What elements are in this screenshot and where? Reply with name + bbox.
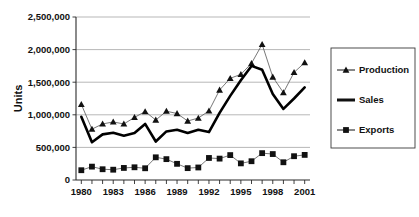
data-point-marker — [206, 155, 212, 161]
data-point-marker — [78, 101, 85, 107]
data-point-marker — [206, 107, 213, 113]
data-point-marker — [110, 167, 116, 173]
series-line — [81, 44, 304, 129]
data-point-marker — [89, 164, 95, 170]
x-tick-label: 1995 — [230, 186, 252, 197]
y-tick-label: 500,000 — [36, 142, 70, 153]
gridlines — [76, 17, 310, 147]
data-point-marker — [227, 152, 233, 158]
x-axis-tick-labels: 19801983198619891992199519982001 — [71, 186, 316, 197]
data-point-marker — [291, 153, 297, 159]
y-tick-label: 2,500,000 — [28, 11, 70, 22]
data-point-marker — [152, 117, 159, 123]
x-axis-tick-marks — [81, 180, 304, 184]
data-point-marker — [174, 161, 180, 167]
data-point-marker — [164, 156, 170, 162]
legend-swatch-marker — [343, 127, 349, 133]
data-point-marker — [270, 151, 276, 157]
series-production — [78, 41, 308, 132]
data-point-marker — [281, 159, 287, 165]
data-point-marker — [269, 74, 276, 80]
chart-svg: 0500,0001,000,0001,500,0002,000,0002,500… — [0, 0, 419, 217]
data-point-marker — [89, 126, 96, 132]
y-axis-title: Units — [12, 85, 24, 113]
data-point-marker — [249, 158, 255, 164]
x-tick-label: 1992 — [198, 186, 219, 197]
x-tick-label: 2001 — [294, 186, 316, 197]
data-point-marker — [217, 156, 223, 162]
series-exports — [78, 150, 307, 173]
data-point-marker — [153, 154, 159, 160]
data-point-marker — [195, 165, 201, 171]
x-tick-label: 1986 — [135, 186, 156, 197]
data-point-marker — [238, 160, 244, 166]
y-tick-label: 0 — [65, 174, 70, 185]
data-point-marker — [259, 41, 266, 47]
data-point-marker — [227, 75, 234, 81]
data-point-marker — [302, 152, 308, 158]
data-point-marker — [195, 115, 202, 121]
chart-container: 0500,0001,000,0001,500,0002,000,0002,500… — [0, 0, 419, 217]
y-tick-label: 1,500,000 — [28, 77, 70, 88]
data-point-marker — [110, 119, 117, 125]
legend: ProductionSalesExports — [331, 48, 415, 148]
y-tick-label: 2,000,000 — [28, 44, 70, 55]
x-tick-label: 1989 — [166, 186, 187, 197]
data-point-marker — [259, 150, 265, 156]
y-tick-label: 1,000,000 — [28, 109, 70, 120]
data-point-marker — [132, 164, 138, 170]
data-point-marker — [100, 166, 106, 172]
legend-label: Sales — [359, 94, 384, 105]
data-point-marker — [121, 165, 127, 171]
data-point-marker — [142, 108, 149, 114]
data-point-marker — [280, 89, 287, 95]
x-tick-label: 1998 — [262, 186, 283, 197]
data-point-marker — [301, 59, 308, 65]
data-point-marker — [163, 108, 170, 114]
data-point-marker — [142, 165, 148, 171]
legend-label: Production — [359, 64, 409, 75]
data-point-marker — [78, 167, 84, 173]
x-tick-label: 1980 — [71, 186, 92, 197]
data-point-marker — [185, 165, 191, 171]
y-axis-tick-labels: 0500,0001,000,0001,500,0002,000,0002,500… — [28, 11, 70, 185]
x-tick-label: 1983 — [103, 186, 124, 197]
legend-label: Exports — [359, 124, 394, 135]
